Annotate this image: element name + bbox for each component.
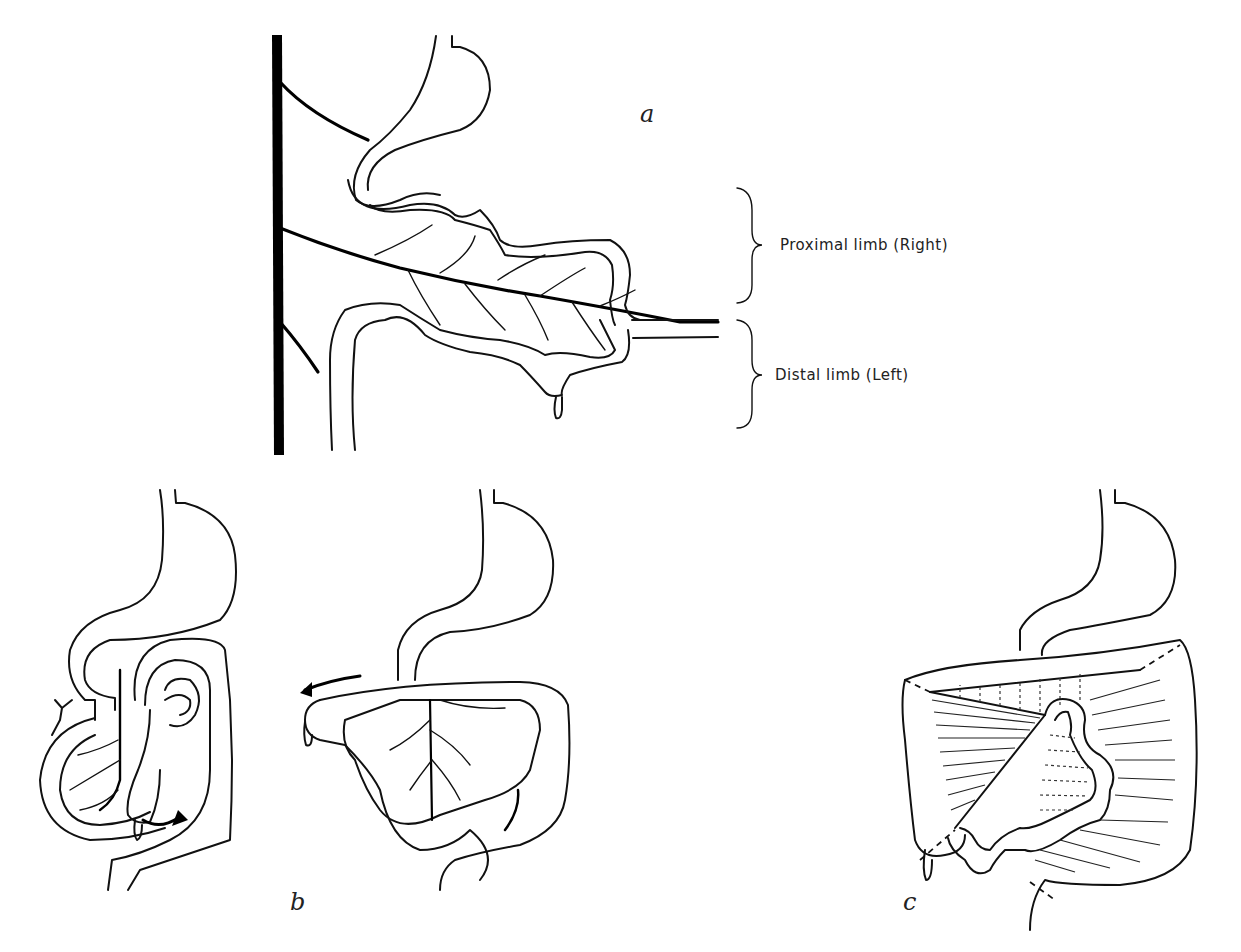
proximal-limb-label: Proximal limb (Right) xyxy=(780,236,948,254)
panel-a-drawing xyxy=(277,35,718,455)
brace-proximal xyxy=(737,188,762,303)
panel-label-b: b xyxy=(290,888,305,916)
panel-label-a: a xyxy=(640,100,654,128)
panel-label-c: c xyxy=(903,888,916,916)
diagram-drawing xyxy=(0,0,1241,952)
brace-distal xyxy=(737,320,762,428)
panel-c-drawing xyxy=(903,490,1197,930)
panel-b-right-drawing xyxy=(300,490,569,890)
distal-limb-label: Distal limb (Left) xyxy=(775,366,909,384)
panel-b-left-drawing xyxy=(40,490,236,890)
